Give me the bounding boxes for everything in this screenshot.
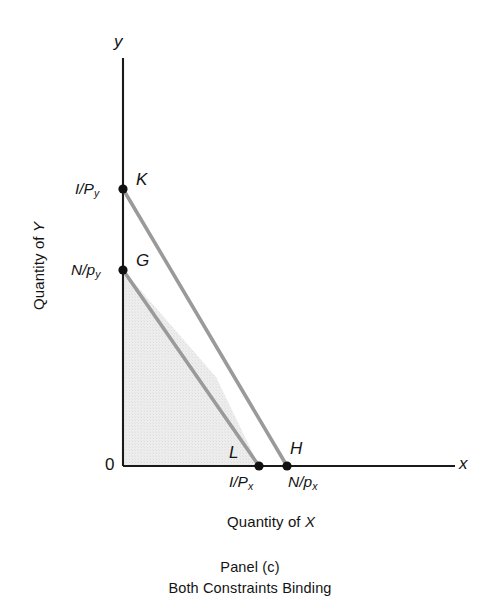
y-axis-title-var: Y [30,222,47,232]
value-label-L-sub: x [248,480,253,492]
economics-budget-constraint-figure: y x 0 K G L H I/Py N/py I/Px N/px Quanti… [0,0,500,615]
point-label-K: K [136,171,147,188]
x-axis-title-text: Quantity of [227,513,305,530]
value-label-K: I/Py [75,181,99,197]
value-label-K-num: I/P [75,180,94,197]
caption-description-line: Both Constraints Binding [0,580,500,596]
point-label-L: L [229,444,238,461]
point-label-G: G [136,252,149,269]
value-label-H-sub: x [312,480,317,492]
x-axis-title-var: X [305,513,315,530]
value-label-L-num: I/P [229,473,248,490]
value-label-H-num: N/p [288,473,312,490]
origin-label: 0 [105,456,114,473]
x-axis-letter: x [459,455,468,472]
value-label-H: N/px [288,474,317,490]
point-label-H: H [290,440,302,457]
y-axis-title-text: Quantity of [30,232,47,310]
point-marker-K [118,184,127,193]
value-label-K-sub: y [94,187,99,199]
value-label-G-num: N/p [71,261,95,278]
y-axis-letter: y [114,33,123,50]
point-marker-H [282,461,291,470]
value-label-G-sub: y [95,268,100,280]
value-label-L: I/Px [229,474,253,490]
value-label-G: N/py [71,262,100,278]
caption-panel-line: Panel (c) [0,559,500,575]
point-marker-L [254,461,263,470]
x-axis-title: Quantity of X [227,514,315,529]
y-axis-title: Quantity of Y [31,222,46,310]
point-marker-G [118,265,127,274]
